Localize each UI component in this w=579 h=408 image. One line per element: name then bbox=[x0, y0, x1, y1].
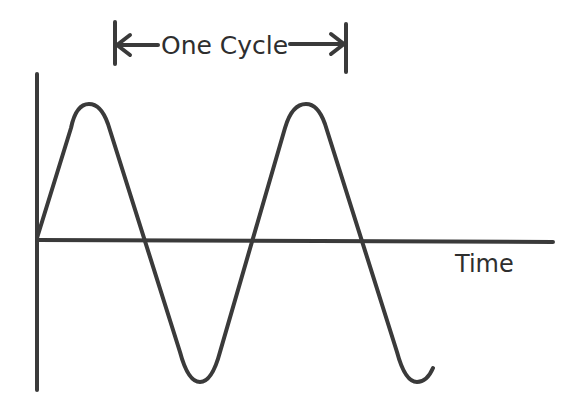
time-axis-label: Time bbox=[454, 250, 514, 278]
waveform-diagram: One Cycle Time bbox=[0, 0, 579, 408]
cycle-label: One Cycle bbox=[161, 31, 288, 60]
cycle-marker: One Cycle bbox=[115, 22, 346, 72]
time-axis bbox=[37, 240, 553, 242]
